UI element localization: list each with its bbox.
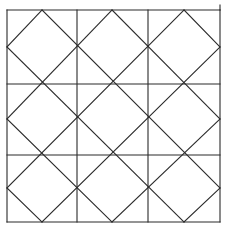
diagonal-line: [42, 47, 220, 222]
diagonal-line: [184, 10, 220, 47]
diagonals-down-right: [7, 10, 220, 222]
diamond-lattice-diagram: [0, 0, 226, 229]
diagonal-line: [112, 10, 220, 119]
diagonal-line: [7, 10, 42, 47]
square-grid: [7, 10, 220, 222]
diagonal-line: [7, 47, 184, 222]
diagonal-line: [184, 188, 220, 222]
diagonal-line: [7, 10, 184, 188]
diagonal-line: [42, 10, 220, 188]
diagonal-line: [7, 188, 42, 222]
diagonals-up-right: [7, 10, 220, 222]
